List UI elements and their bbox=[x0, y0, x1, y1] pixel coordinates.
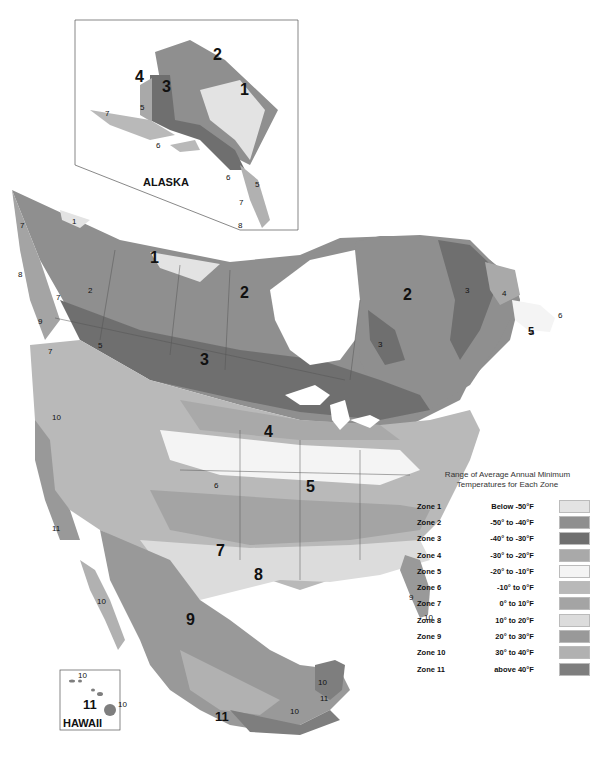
zone-label: 10 bbox=[290, 707, 299, 716]
legend-range: -30° to -20°F bbox=[466, 551, 534, 560]
legend-swatch bbox=[559, 549, 590, 562]
legend-row-zone-1: Zone 1Below -50°F bbox=[415, 498, 590, 514]
zone-label: 5 bbox=[255, 180, 260, 189]
legend-swatch bbox=[559, 532, 590, 545]
legend-range: -20° to -10°F bbox=[466, 567, 534, 576]
zone-label: 2 bbox=[88, 286, 93, 295]
legend-row-zone-9: Zone 920° to 30°F bbox=[415, 628, 590, 644]
legend-swatch bbox=[559, 581, 590, 594]
zone-label: 10 bbox=[118, 700, 127, 709]
legend-zone: Zone 3 bbox=[415, 534, 466, 543]
legend-zone: Zone 2 bbox=[415, 518, 466, 527]
zone-label: 10 bbox=[78, 671, 87, 680]
zone-label: 9 bbox=[186, 611, 195, 628]
zone-label: 4 bbox=[135, 68, 144, 85]
legend-row-zone-10: Zone 1030° to 40°F bbox=[415, 645, 590, 661]
legend-range: 10° to 20°F bbox=[466, 616, 534, 625]
legend-zone: Zone 6 bbox=[415, 583, 466, 592]
legend-row-zone-7: Zone 70° to 10°F bbox=[415, 596, 590, 612]
zone-label: 1 bbox=[72, 217, 77, 226]
zone-label: 3 bbox=[200, 351, 209, 368]
zone-label: 9 bbox=[38, 317, 43, 326]
zone-label: 5 bbox=[528, 325, 534, 337]
zone-label: 5 bbox=[98, 341, 103, 350]
legend-zone: Zone 10 bbox=[415, 648, 466, 657]
zone-label: 6 bbox=[226, 173, 231, 182]
legend-zone: Zone 7 bbox=[415, 599, 466, 608]
zone-label: 7 bbox=[105, 109, 110, 118]
zone-label: 4 bbox=[264, 423, 273, 440]
zone-label: 8 bbox=[238, 221, 243, 230]
zone-label: 8 bbox=[18, 270, 23, 279]
alaska-inset bbox=[75, 20, 298, 230]
legend-range: -50° to -40°F bbox=[466, 518, 534, 527]
legend-range: 20° to 30°F bbox=[466, 632, 534, 641]
legend-row-zone-3: Zone 3-40° to -30°F bbox=[415, 531, 590, 547]
zone-label: 6 bbox=[156, 141, 161, 150]
zone-label: 1 bbox=[150, 249, 159, 266]
legend-range: -40° to -30°F bbox=[466, 534, 534, 543]
legend-range: -10° to 0°F bbox=[466, 583, 534, 592]
zone-label: 2 bbox=[403, 286, 412, 303]
zone-label: 11 bbox=[215, 709, 229, 724]
legend-swatch bbox=[559, 630, 590, 643]
zone-label: 2 bbox=[240, 284, 249, 301]
legend-zone: Zone 4 bbox=[415, 551, 466, 560]
legend-title-line1: Range of Average Annual Minimum bbox=[425, 470, 590, 480]
zone-label: 11 bbox=[83, 697, 97, 712]
zone-label: 11 bbox=[320, 694, 329, 703]
legend-zone: Zone 11 bbox=[415, 665, 466, 674]
legend-swatch bbox=[559, 500, 590, 513]
zone-label: 11 bbox=[52, 524, 61, 533]
legend-swatch bbox=[559, 646, 590, 659]
legend-range: 30° to 40°F bbox=[466, 648, 534, 657]
legend-row-zone-8: Zone 810° to 20°F bbox=[415, 612, 590, 628]
zone-label: 6 bbox=[558, 311, 563, 320]
zone-label: 5 bbox=[306, 478, 315, 495]
legend-row-zone-6: Zone 6-10° to 0°F bbox=[415, 579, 590, 595]
legend-zone: Zone 5 bbox=[415, 567, 466, 576]
zone-label: 10 bbox=[318, 678, 327, 687]
legend-swatch bbox=[559, 565, 590, 578]
zone-label: 7 bbox=[20, 221, 25, 230]
zone-label: 4 bbox=[502, 289, 507, 298]
legend-range: Below -50°F bbox=[466, 502, 534, 511]
zone-label: 10 bbox=[52, 413, 61, 422]
zone-label: 3 bbox=[378, 340, 383, 349]
legend-row-zone-5: Zone 5-20° to -10°F bbox=[415, 563, 590, 579]
legend-zone: Zone 1 bbox=[415, 502, 466, 511]
legend-range: above 40°F bbox=[466, 665, 534, 674]
legend-zone: Zone 8 bbox=[415, 616, 466, 625]
legend-zone: Zone 9 bbox=[415, 632, 466, 641]
zone-label: 7 bbox=[216, 542, 225, 559]
legend-row-zone-4: Zone 4-30° to -20°F bbox=[415, 547, 590, 563]
legend-row-zone-2: Zone 2-50° to -40°F bbox=[415, 514, 590, 530]
hawaii-label: HAWAII bbox=[63, 717, 102, 729]
zone-label: 7 bbox=[239, 198, 244, 207]
legend-row-zone-11: Zone 11above 40°F bbox=[415, 661, 590, 677]
zone-label: 3 bbox=[465, 286, 470, 295]
legend-rows: Zone 1Below -50°F Zone 2-50° to -40°F Zo… bbox=[415, 498, 590, 677]
zone-label: 1 bbox=[240, 81, 249, 98]
zone-label: 7 bbox=[48, 347, 53, 356]
zone-label: 3 bbox=[162, 78, 171, 95]
legend-swatch bbox=[559, 663, 590, 676]
zone-label: 9 bbox=[409, 593, 414, 602]
legend: Range of Average Annual Minimum Temperat… bbox=[415, 470, 590, 677]
legend-swatch bbox=[559, 597, 590, 610]
zone-label: 6 bbox=[214, 481, 219, 490]
zone-label: 5 bbox=[140, 103, 145, 112]
zone-label: 2 bbox=[213, 46, 222, 63]
zone-label: 7 bbox=[56, 293, 61, 302]
legend-range: 0° to 10°F bbox=[466, 599, 534, 608]
legend-swatch bbox=[559, 516, 590, 529]
zone-label: 8 bbox=[254, 566, 263, 583]
alaska-label: ALASKA bbox=[143, 176, 189, 188]
legend-title-line2: Temperatures for Each Zone bbox=[425, 480, 590, 490]
zone-label: 10 bbox=[97, 597, 106, 606]
legend-title: Range of Average Annual Minimum Temperat… bbox=[425, 470, 590, 490]
legend-swatch bbox=[559, 614, 590, 627]
